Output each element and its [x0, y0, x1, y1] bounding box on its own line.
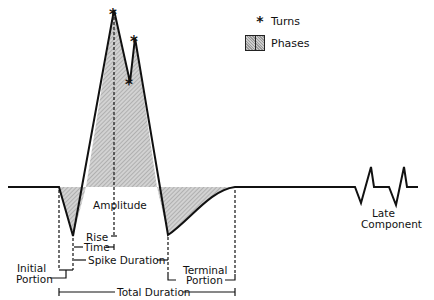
portion-label: Portion	[16, 273, 53, 285]
legend-turns-label: Turns	[271, 15, 300, 28]
legend-phases-label: Phases	[271, 37, 310, 50]
legend-turns: * Turns	[245, 10, 310, 32]
phase-shading	[59, 10, 235, 236]
svg-text:*: *	[109, 6, 117, 24]
asterisk-icon: *	[249, 13, 271, 29]
spike-duration-label: Spike Duration	[88, 254, 165, 266]
svg-text:*: *	[130, 33, 138, 51]
motor-unit-potential-diagram: * * * Amplitude Rise Time Spike	[0, 0, 434, 300]
svg-text:*: *	[125, 76, 133, 94]
total-duration-label: Total Duration	[116, 286, 190, 298]
hatched-swatch-icon	[245, 35, 265, 51]
amplitude-label: Amplitude	[93, 199, 147, 211]
component-label: Component	[361, 218, 422, 230]
terminal-portion-label: Portion	[186, 274, 223, 286]
legend: * Turns Phases	[245, 10, 310, 54]
time-label: Time	[83, 241, 110, 253]
legend-phases: Phases	[245, 32, 310, 54]
